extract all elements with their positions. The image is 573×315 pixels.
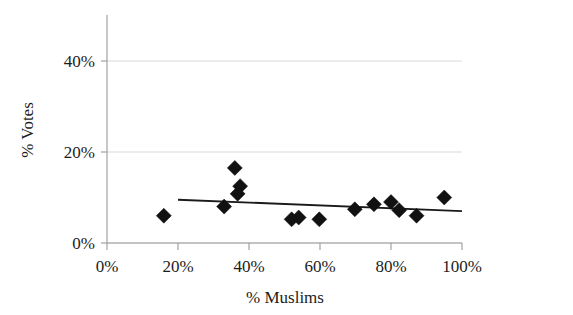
x-tick-label-100: 100% <box>442 257 482 276</box>
x-axis-tick-labels: 0% 20% 40% 60% 80% 100% <box>96 257 482 276</box>
y-axis-title: % Votes <box>18 102 37 158</box>
data-point <box>156 208 171 223</box>
data-point <box>227 160 242 175</box>
plot-canvas: 40% 20% 0% 0% 20% 40% 60% 80% 100% % Mus… <box>0 0 573 315</box>
x-tick-label-40: 40% <box>233 257 264 276</box>
data-point <box>347 202 362 217</box>
x-tick-label-20: 20% <box>162 257 193 276</box>
data-point <box>366 197 381 212</box>
y-axis-ticks <box>101 61 107 243</box>
y-tick-label-0: 0% <box>72 234 95 253</box>
x-axis-ticks <box>107 243 462 250</box>
y-axis-tick-labels: 40% 20% 0% <box>64 52 95 253</box>
data-point <box>312 212 327 227</box>
x-tick-label-80: 80% <box>375 257 406 276</box>
scatter-chart: 40% 20% 0% 0% 20% 40% 60% 80% 100% % Mus… <box>0 0 573 315</box>
x-tick-label-0: 0% <box>96 257 119 276</box>
y-tick-label-20: 20% <box>64 143 95 162</box>
y-tick-label-40: 40% <box>64 52 95 71</box>
x-axis-title: % Muslims <box>246 288 324 307</box>
data-point-markers <box>156 160 451 226</box>
data-point <box>437 190 452 205</box>
x-tick-label-60: 60% <box>304 257 335 276</box>
